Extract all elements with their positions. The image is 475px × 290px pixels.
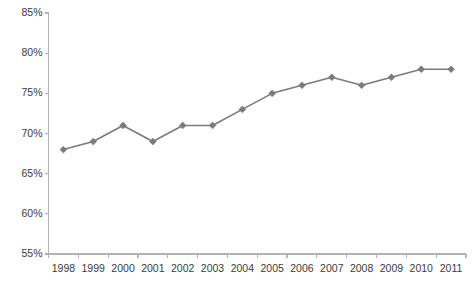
chart-plot-area <box>0 0 475 290</box>
y-axis-tick-label: 55% <box>3 247 43 259</box>
data-series-line <box>63 69 451 149</box>
data-point-marker <box>358 82 365 89</box>
y-axis-tick-label: 75% <box>3 86 43 98</box>
line-chart: 85%80%75%70%65%60%55% 199819992000200120… <box>0 0 475 290</box>
data-point-marker <box>328 74 335 81</box>
data-point-marker <box>418 66 425 73</box>
data-point-marker <box>179 122 186 129</box>
y-axis-tick-label: 85% <box>3 6 43 18</box>
data-point-marker <box>60 146 67 153</box>
chart-axes <box>45 13 467 258</box>
data-point-marker <box>299 82 306 89</box>
y-axis-tick-label: 70% <box>3 127 43 139</box>
data-point-marker <box>388 74 395 81</box>
y-axis-tick-label: 60% <box>3 207 43 219</box>
series-line-path <box>63 69 451 149</box>
x-axis-tick-label: 2011 <box>434 262 468 274</box>
data-point-marker <box>209 122 216 129</box>
data-point-marker <box>120 122 127 129</box>
data-point-marker <box>149 138 156 145</box>
data-point-marker <box>239 106 246 113</box>
data-point-marker <box>448 66 455 73</box>
data-point-markers <box>60 66 454 153</box>
y-axis-tick-label: 65% <box>3 167 43 179</box>
data-point-marker <box>269 90 276 97</box>
data-point-marker <box>90 138 97 145</box>
y-axis-tick-label: 80% <box>3 46 43 58</box>
